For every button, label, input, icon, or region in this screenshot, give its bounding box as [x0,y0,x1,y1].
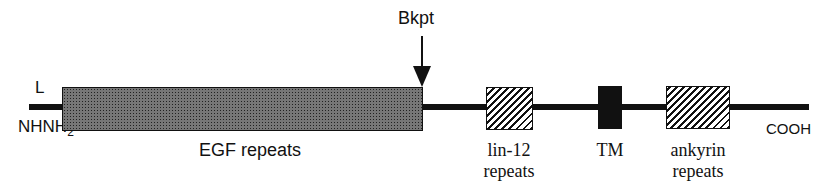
lin12-repeats-domain [486,87,533,130]
leader-label: L [35,78,44,98]
egf-repeats-label: EGF repeats [150,140,350,161]
lin12-label-line2: repeats [459,161,559,182]
ankyrin-label-line1: ankyrin [648,140,748,161]
ankyrin-label-line2: repeats [648,161,748,182]
tm-label: TM [580,140,640,161]
c-terminus-label: COOH [766,120,811,137]
breakpoint-label: Bkpt [398,8,434,29]
lin12-label-line1: lin-12 [459,140,559,161]
breakpoint-arrow-icon [409,36,435,88]
lin12-repeats-label: lin-12 repeats [459,140,559,182]
ankyrin-repeats-label: ankyrin repeats [648,140,748,182]
tm-domain [598,86,622,129]
ankyrin-repeats-domain [666,86,730,129]
egf-repeats-domain [62,87,423,131]
